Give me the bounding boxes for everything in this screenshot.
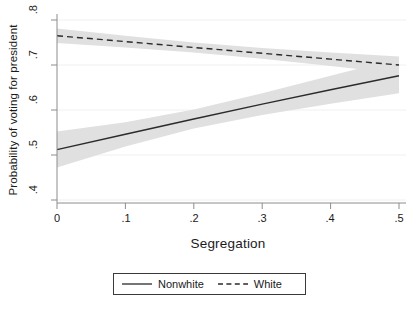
legend-label-white: White [254,278,282,290]
legend-item-nonwhite: Nonwhite [122,274,204,294]
plot-area [0,0,419,309]
confidence-bands [57,29,399,168]
legend-item-white: White [218,274,282,294]
legend: Nonwhite White [113,273,306,295]
solid-line-icon [122,279,152,289]
legend-label-nonwhite: Nonwhite [158,278,204,290]
series-line-white [57,36,399,65]
confidence-band-nonwhite [57,58,399,167]
dashed-line-icon [218,279,248,289]
chart-figure: Probability of voting for president .8 .… [0,0,419,309]
